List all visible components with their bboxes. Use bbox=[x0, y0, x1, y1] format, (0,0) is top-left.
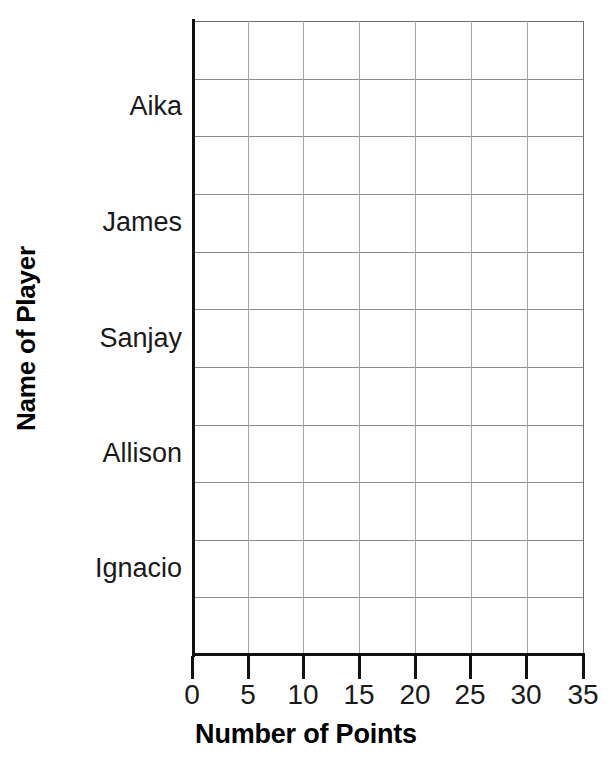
x-tick-label-35: 35 bbox=[567, 681, 598, 709]
x-tick-mark bbox=[358, 656, 361, 679]
category-axis-labels: AikaJamesSanjayAllisonIgnacio bbox=[54, 21, 186, 655]
category-label-ignacio: Ignacio bbox=[95, 555, 182, 582]
x-tick-mark bbox=[469, 656, 472, 679]
gridline-horizontal bbox=[192, 21, 583, 22]
gridline-horizontal bbox=[192, 540, 583, 541]
gridline-horizontal bbox=[192, 309, 583, 310]
gridline-horizontal bbox=[192, 425, 583, 426]
category-label-aika: Aika bbox=[129, 93, 182, 120]
gridline-vertical bbox=[359, 21, 360, 655]
gridline-horizontal bbox=[192, 194, 583, 195]
category-label-allison: Allison bbox=[102, 440, 182, 467]
gridline-vertical bbox=[303, 21, 304, 655]
category-label-james: James bbox=[102, 209, 182, 236]
gridline-vertical bbox=[248, 21, 249, 655]
gridline-horizontal bbox=[192, 482, 583, 483]
x-tick-mark bbox=[414, 656, 417, 679]
x-tick-label-15: 15 bbox=[343, 681, 374, 709]
gridline-vertical bbox=[415, 21, 416, 655]
x-tick-mark bbox=[582, 656, 585, 679]
x-tick-label-30: 30 bbox=[510, 681, 541, 709]
gridline-horizontal bbox=[192, 252, 583, 253]
y-axis-title-text: Name of Player bbox=[12, 245, 43, 430]
gridline-vertical bbox=[471, 21, 472, 655]
x-tick-mark bbox=[302, 656, 305, 679]
gridline-vertical bbox=[527, 21, 528, 655]
chart-page: Name of Player AikaJamesSanjayAllisonIgn… bbox=[0, 0, 612, 765]
gridline-vertical bbox=[583, 21, 584, 655]
x-tick-label-5: 5 bbox=[240, 681, 256, 709]
y-axis-spine bbox=[192, 19, 195, 657]
gridline-horizontal bbox=[192, 367, 583, 368]
y-axis-title: Name of Player bbox=[0, 0, 54, 676]
x-tick-label-20: 20 bbox=[399, 681, 430, 709]
gridline-horizontal bbox=[192, 597, 583, 598]
x-axis-title: Number of Points bbox=[0, 721, 612, 748]
category-label-sanjay: Sanjay bbox=[99, 325, 182, 352]
x-tick-mark bbox=[247, 656, 250, 679]
plot-area bbox=[192, 21, 583, 655]
gridline-horizontal bbox=[192, 79, 583, 80]
x-tick-mark bbox=[525, 656, 528, 679]
gridline-horizontal bbox=[192, 136, 583, 137]
x-tick-mark bbox=[191, 656, 194, 679]
x-tick-label-10: 10 bbox=[287, 681, 318, 709]
x-tick-label-0: 0 bbox=[184, 681, 200, 709]
x-tick-label-25: 25 bbox=[454, 681, 485, 709]
